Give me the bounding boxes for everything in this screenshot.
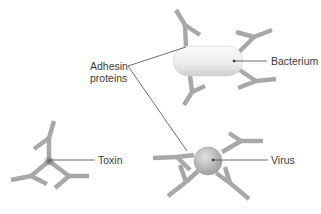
virus-label: Virus (271, 154, 295, 166)
virus-leader-dot (212, 159, 215, 162)
bacterium-label: Bacterium (271, 55, 318, 67)
bacterium-leader-dot (233, 60, 236, 63)
virus-particle (194, 147, 222, 175)
toxin-label: Toxin (98, 154, 123, 166)
toxin-antibodies (11, 121, 89, 188)
adhesin-label-line2: proteins (90, 72, 128, 84)
adhesin-label: Adhesin proteins (90, 60, 128, 84)
diagram-canvas (0, 0, 321, 214)
toxin-molecule (43, 155, 55, 167)
adhesin-leader-virus (128, 66, 187, 151)
bacterium-cell (173, 46, 243, 76)
adhesin-label-line1: Adhesin (90, 60, 128, 72)
